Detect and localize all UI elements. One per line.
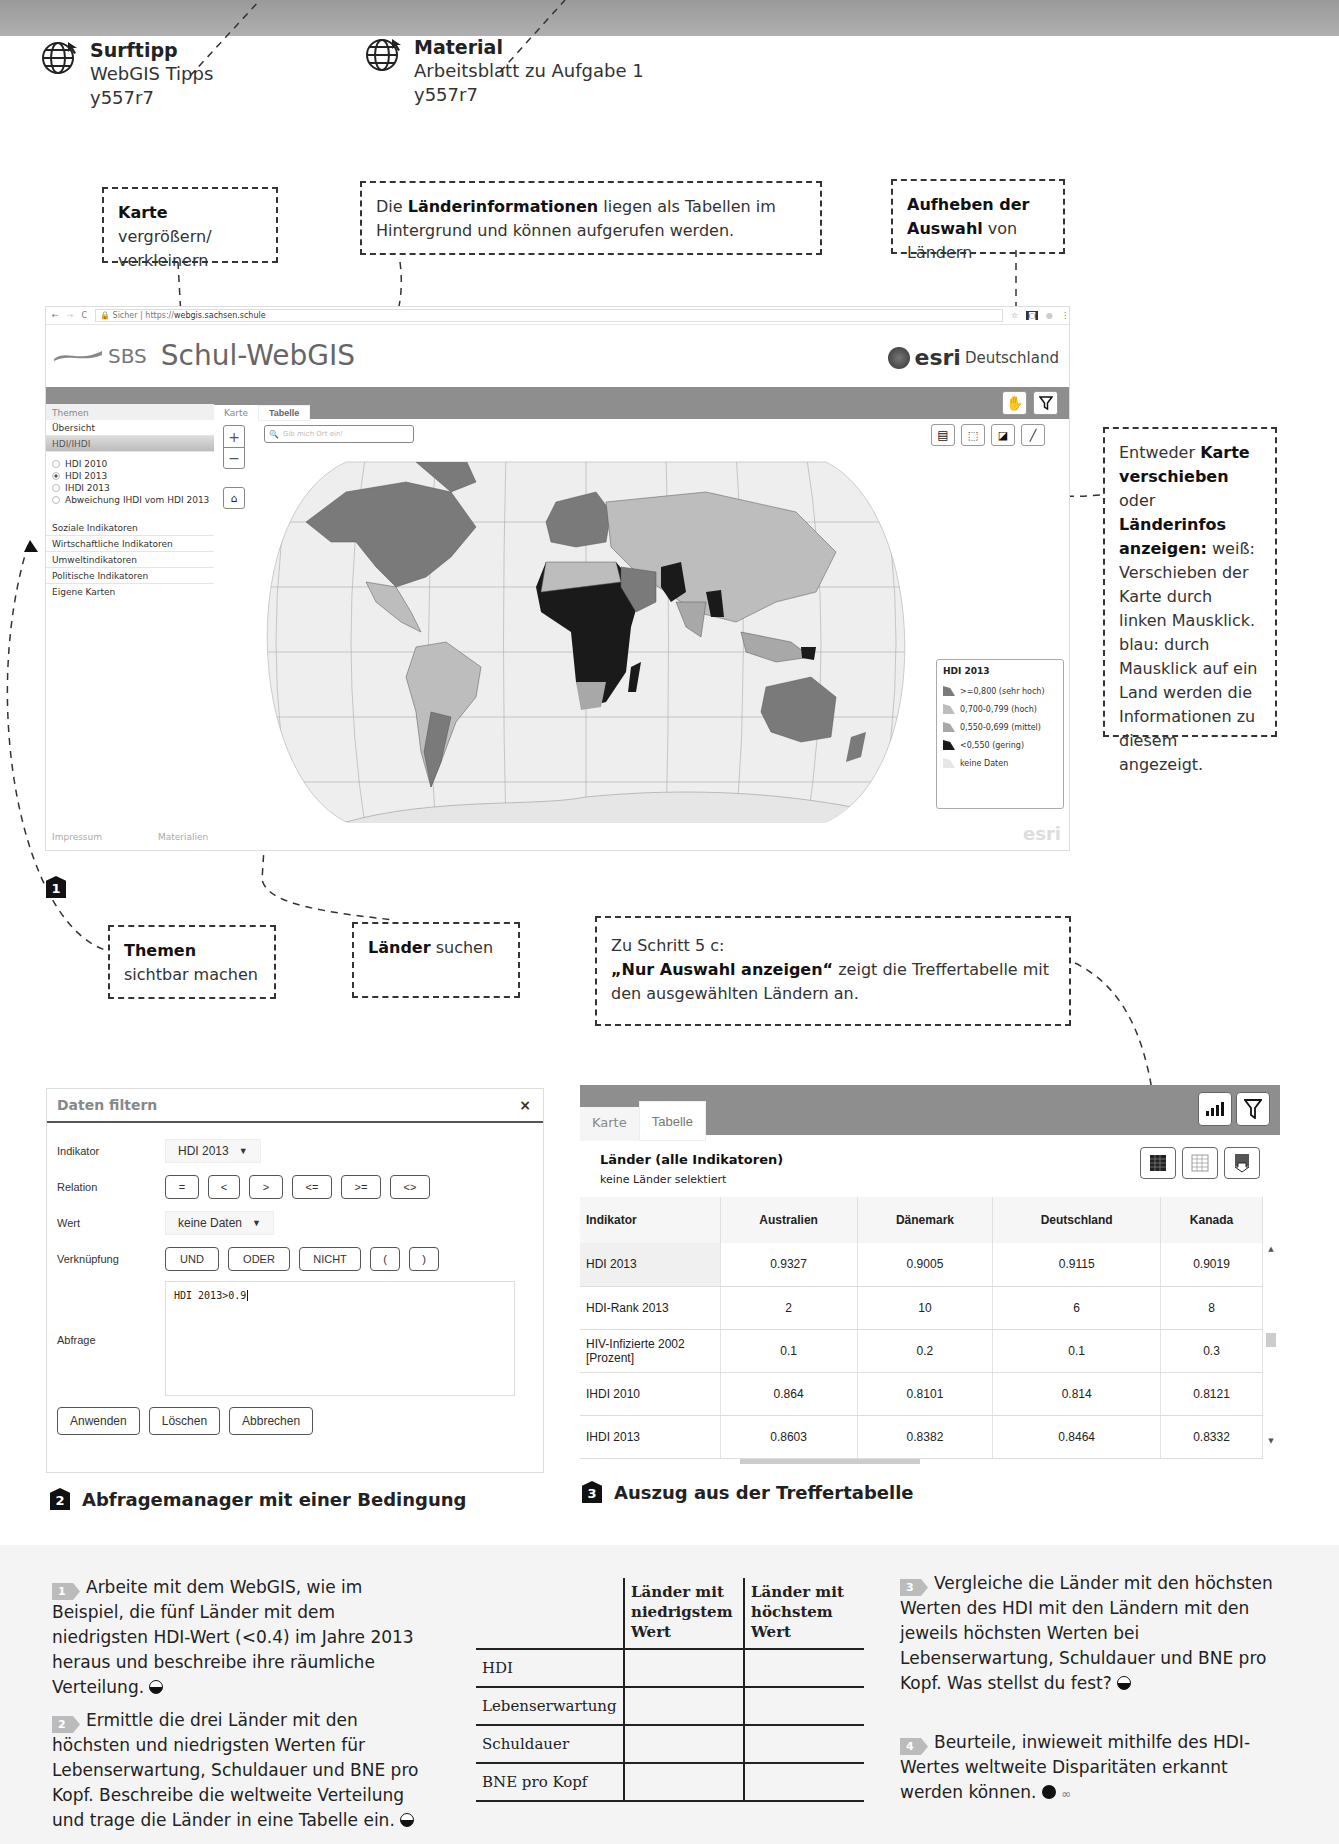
sidebar-item-social[interactable]: Soziale Indikatoren bbox=[46, 520, 214, 536]
draw-button[interactable]: ╱ bbox=[1021, 424, 1045, 446]
indikator-select[interactable]: HDI 2013▼ bbox=[165, 1139, 261, 1163]
legend-swatch-icon bbox=[943, 686, 955, 696]
figure-number-badge: 3 bbox=[582, 1481, 602, 1503]
dotted-select-icon: ⬚ bbox=[968, 429, 978, 442]
vertical-scrollbar[interactable]: ▲ ▼ bbox=[1266, 1245, 1276, 1455]
table-row: HDI 20130.93270.90050.91150.9019 bbox=[580, 1243, 1263, 1286]
paren-open-button[interactable]: ( bbox=[370, 1247, 400, 1271]
difficulty-medium-icon bbox=[1117, 1676, 1131, 1690]
show-selection-only-button[interactable] bbox=[1140, 1147, 1176, 1179]
relation-less-equal-button[interactable]: <= bbox=[292, 1175, 332, 1199]
chart-button[interactable] bbox=[1198, 1092, 1232, 1126]
list-icon: ▤ bbox=[937, 428, 948, 442]
answer-cell[interactable] bbox=[624, 1725, 744, 1763]
answer-cell[interactable] bbox=[744, 1649, 864, 1687]
answer-cell[interactable] bbox=[624, 1649, 744, 1687]
sidebar-item-economic[interactable]: Wirtschaftliche Indikatoren bbox=[46, 536, 214, 552]
reload-icon[interactable]: C bbox=[81, 311, 87, 320]
forward-icon[interactable]: → bbox=[67, 311, 74, 320]
deselect-countries-button[interactable]: ✋ bbox=[1002, 391, 1027, 415]
world-map[interactable] bbox=[236, 452, 936, 832]
sidebar-item-political[interactable]: Politische Indikatoren bbox=[46, 568, 214, 584]
sidebar-item-environment[interactable]: Umweltindikatoren bbox=[46, 552, 214, 568]
tab-karte[interactable]: Karte bbox=[214, 405, 258, 421]
zoom-in-button[interactable]: + bbox=[224, 426, 244, 447]
indikator-label: Indikator bbox=[57, 1145, 165, 1157]
radio-hdi-2010[interactable]: HDI 2010 bbox=[46, 458, 214, 470]
impressum-link[interactable]: Impressum bbox=[52, 832, 102, 842]
radio-hdi-2013[interactable]: HDI 2013 bbox=[46, 470, 214, 482]
tab-karte[interactable]: Karte bbox=[580, 1107, 639, 1141]
anwenden-button[interactable]: Anwenden bbox=[57, 1407, 140, 1435]
column-header[interactable]: Kanada bbox=[1161, 1197, 1263, 1243]
result-table-screenshot: Karte Tabelle Länder (alle Indikatoren) … bbox=[580, 1085, 1280, 1465]
answer-cell[interactable] bbox=[744, 1687, 864, 1725]
table-grid-icon bbox=[1191, 1154, 1209, 1172]
column-header[interactable]: Indikator bbox=[580, 1197, 720, 1243]
horizontal-scrollbar[interactable] bbox=[740, 1459, 920, 1464]
table-row: HIV-Infizierte 2002 [Prozent]0.10.20.10.… bbox=[580, 1329, 1263, 1372]
webgis-screenshot: ← → C 🔒 Sicher | https://webgis.sachsen.… bbox=[45, 306, 1070, 851]
materialien-link[interactable]: Materialien bbox=[158, 832, 208, 842]
glasses-icon: ∞ bbox=[1061, 1787, 1071, 1801]
relation-not-equal-button[interactable]: <> bbox=[390, 1175, 430, 1199]
relation-equals-button[interactable]: = bbox=[165, 1175, 199, 1199]
answer-cell[interactable] bbox=[624, 1763, 744, 1801]
column-header: Länder mit niedrigstem Wert bbox=[624, 1578, 744, 1649]
filter-button[interactable] bbox=[1236, 1092, 1270, 1126]
star-icon[interactable]: ☆ bbox=[1011, 311, 1018, 320]
tab-tabelle[interactable]: Tabelle bbox=[639, 1101, 706, 1141]
legend-item: 0,550-0,699 (mittel) bbox=[943, 718, 1057, 736]
select-polygon-button[interactable]: ◪ bbox=[991, 424, 1015, 446]
sidebar-item-own-maps[interactable]: Eigene Karten bbox=[46, 584, 214, 600]
tab-tabelle[interactable]: Tabelle bbox=[258, 405, 310, 421]
map-legend: HDI 2013 >=0,800 (sehr hoch) 0,700-0,799… bbox=[936, 659, 1064, 809]
task-2: 2Ermittle die drei Länder mit den höchst… bbox=[52, 1708, 432, 1833]
relation-greater-equal-button[interactable]: >= bbox=[341, 1175, 381, 1199]
menu-icon[interactable]: ⋮ bbox=[1061, 311, 1069, 320]
radio-abweichung[interactable]: Abweichung IHDI vom HDI 2013 bbox=[46, 494, 214, 506]
paren-close-button[interactable]: ) bbox=[409, 1247, 439, 1271]
loeschen-button[interactable]: Löschen bbox=[149, 1407, 220, 1435]
table-title: Länder (alle Indikatoren) bbox=[600, 1152, 783, 1167]
column-header[interactable]: Deutschland bbox=[993, 1197, 1161, 1243]
table-view-button[interactable]: ▤ bbox=[931, 424, 955, 446]
legend-swatch-icon bbox=[943, 722, 955, 732]
dialog-title: Daten filtern bbox=[57, 1097, 157, 1113]
sidebar-item-overview[interactable]: Übersicht bbox=[46, 420, 214, 436]
sbs-logo: SBS Schul-WebGIS bbox=[54, 339, 355, 372]
legend-swatch-icon bbox=[943, 740, 955, 750]
und-button[interactable]: UND bbox=[165, 1247, 219, 1271]
back-icon[interactable]: ← bbox=[52, 311, 59, 320]
radio-ihdi-2013[interactable]: IHDI 2013 bbox=[46, 482, 214, 494]
answer-cell[interactable] bbox=[624, 1687, 744, 1725]
relation-greater-button[interactable]: > bbox=[249, 1175, 283, 1199]
nicht-button[interactable]: NICHT bbox=[299, 1247, 361, 1271]
sidebar-item-hdi[interactable]: HDI/IHDI bbox=[46, 436, 214, 452]
wert-select[interactable]: keine Daten▼ bbox=[165, 1211, 274, 1235]
task-number-icon: 2 bbox=[52, 1716, 80, 1733]
extension-icon[interactable]: ◙ bbox=[1026, 311, 1038, 320]
column-header[interactable]: Australien bbox=[720, 1197, 857, 1243]
answer-cell[interactable] bbox=[744, 1763, 864, 1801]
table-download-icon bbox=[1233, 1153, 1251, 1173]
select-area-button[interactable]: ⬚ bbox=[961, 424, 985, 446]
column-header[interactable]: Dänemark bbox=[857, 1197, 993, 1243]
relation-less-button[interactable]: < bbox=[208, 1175, 240, 1199]
filter-button[interactable] bbox=[1033, 391, 1058, 415]
address-bar[interactable]: 🔒 Sicher | https://webgis.sachsen.schule bbox=[95, 309, 1003, 322]
callout-search: Länder suchen bbox=[352, 922, 520, 998]
country-search-input[interactable]: 🔍 Gib mich Ort ein! bbox=[264, 425, 414, 443]
abbrechen-button[interactable]: Abbrechen bbox=[229, 1407, 313, 1435]
legend-item: >=0,800 (sehr hoch) bbox=[943, 682, 1057, 700]
abfrage-textarea[interactable]: HDI 2013>0.9 bbox=[165, 1281, 515, 1396]
radio-icon bbox=[52, 484, 60, 492]
close-icon[interactable]: × bbox=[519, 1097, 531, 1113]
oder-button[interactable]: ODER bbox=[228, 1247, 290, 1271]
profile-icon[interactable]: ● bbox=[1046, 311, 1053, 320]
export-table-button[interactable] bbox=[1224, 1147, 1260, 1179]
relation-label: Relation bbox=[57, 1181, 165, 1193]
show-all-button[interactable] bbox=[1182, 1147, 1218, 1179]
answer-cell[interactable] bbox=[744, 1725, 864, 1763]
task-number-icon: 4 bbox=[900, 1738, 928, 1755]
